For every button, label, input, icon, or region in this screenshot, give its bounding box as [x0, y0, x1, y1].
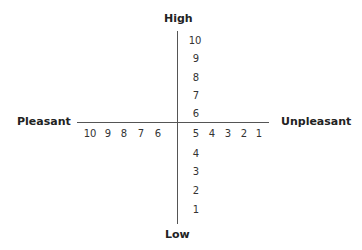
horizontal-tick-8: 8 — [121, 128, 127, 139]
vertical-tick-3: 3 — [193, 166, 199, 177]
vertical-tick-1: 1 — [193, 204, 199, 215]
horizontal-tick-6: 6 — [155, 128, 161, 139]
vertical-axis — [177, 31, 178, 224]
horizontal-tick-5: 5 — [193, 128, 199, 139]
horizontal-axis — [77, 122, 269, 123]
axis-label-pleasant: Pleasant — [17, 115, 71, 128]
vertical-tick-7: 7 — [193, 90, 199, 101]
vertical-tick-2: 2 — [193, 185, 199, 196]
horizontal-tick-10: 10 — [84, 128, 97, 139]
vertical-tick-4: 4 — [193, 148, 199, 159]
horizontal-tick-1: 1 — [256, 128, 262, 139]
axis-label-low: Low — [165, 228, 190, 241]
horizontal-tick-7: 7 — [138, 128, 144, 139]
vertical-tick-6: 6 — [193, 108, 199, 119]
vertical-tick-10: 10 — [189, 35, 202, 46]
horizontal-tick-4: 4 — [209, 128, 215, 139]
axis-label-high: High — [164, 12, 193, 25]
horizontal-tick-9: 9 — [105, 128, 111, 139]
axis-label-unpleasant: Unpleasant — [281, 115, 351, 128]
horizontal-tick-3: 3 — [225, 128, 231, 139]
vertical-tick-8: 8 — [193, 72, 199, 83]
horizontal-tick-2: 2 — [241, 128, 247, 139]
vertical-tick-9: 9 — [193, 53, 199, 64]
